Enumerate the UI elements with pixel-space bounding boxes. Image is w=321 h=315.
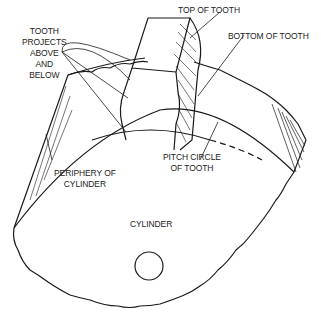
label-line: PERIPHERY OF [54,168,116,179]
gear-tooth-diagram: TOOTH PROJECTS ABOVE AND BELOW TOP OF TO… [0,0,321,315]
label-line: BELOW [22,70,67,81]
label-line: PROJECTS [22,37,67,48]
label-line: TOOTH [22,26,67,37]
label-periphery-of-cylinder: PERIPHERY OF CYLINDER [54,168,116,190]
label-line: PITCH CIRCLE [163,152,221,163]
label-line: ABOVE [22,48,67,59]
label-top-of-tooth: TOP OF TOOTH [178,5,240,16]
label-line: CYLINDER [54,179,116,190]
label-line: OF TOOTH [163,163,221,174]
shaft-hole-circle [135,252,163,280]
label-pitch-circle: PITCH CIRCLE OF TOOTH [163,152,221,174]
label-cylinder: CYLINDER [130,219,172,230]
label-bottom-of-tooth: BOTTOM OF TOOTH [228,31,309,42]
label-tooth-projects: TOOTH PROJECTS ABOVE AND BELOW [22,26,67,81]
top-break-edge [68,61,306,140]
label-line: AND [22,59,67,70]
